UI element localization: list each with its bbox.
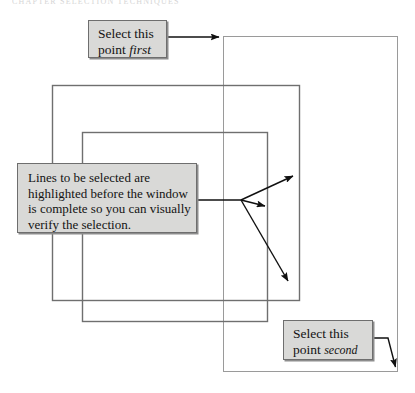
callout-lines-explanation: Lines to be selected are highlighted bef… — [17, 163, 197, 233]
callout-lines-line1: Lines to be selected are — [28, 170, 188, 186]
callout-lines-line2: highlighted before the window — [28, 186, 188, 202]
pointer-arrow-lower — [241, 200, 288, 281]
callout-select-first-point: Select this point first — [88, 20, 167, 58]
callout-select-second-point: Select this point second — [283, 320, 373, 360]
callout-first-line2-prefix: point — [98, 42, 129, 57]
callout-second-line2-prefix: point — [293, 342, 324, 357]
leader-line-second-point — [373, 338, 396, 367]
callout-first-line2: point first — [98, 42, 158, 58]
callout-first-line1: Select this — [98, 26, 158, 42]
callout-lines-line3: is complete so you can visually — [28, 201, 188, 217]
callout-second-emphasis: second — [324, 343, 357, 357]
callout-lines-line4: verify the selection. — [28, 217, 188, 233]
selection-window-figure: CHAPTER SELECTION TECHNIQUES Select this… — [0, 0, 415, 393]
callout-first-emphasis: first — [129, 42, 151, 57]
callout-second-line1: Select this — [293, 326, 364, 342]
callout-second-line2: point second — [293, 342, 364, 358]
